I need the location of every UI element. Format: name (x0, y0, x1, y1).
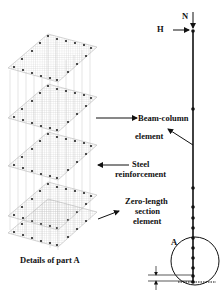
beam-column-label-2: element (135, 132, 163, 141)
zero-length-label-3: element (133, 217, 161, 226)
zero-length-dimension (148, 266, 193, 290)
diagram-canvas (0, 0, 221, 293)
steel-label-2: reinforcement (115, 170, 166, 179)
detail-circle-a (171, 237, 219, 285)
zero-length-pointer (98, 211, 119, 219)
beam-column-label-1: Beam-column (138, 114, 189, 123)
zero-length-label-1: Zero-length (125, 197, 168, 206)
zero-length-label-2: section (135, 207, 160, 216)
axial-load-label: N (182, 12, 188, 21)
lateral-load-label: H (157, 25, 164, 34)
column-element (191, 29, 195, 284)
section-slab-1 (8, 34, 97, 82)
steel-label-1: Steel (132, 160, 149, 169)
section-slab-3 (8, 132, 97, 180)
beam-column-pointer-2 (168, 129, 193, 145)
details-caption: Details of part A (20, 256, 80, 265)
part-a-label: A (171, 238, 177, 247)
section-slab-2 (8, 84, 97, 132)
